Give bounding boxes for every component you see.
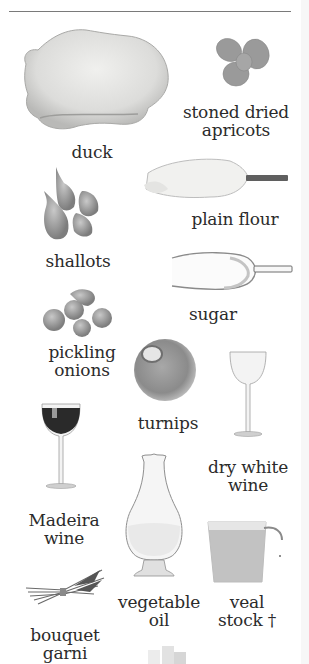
oil-carafe-icon [124, 452, 184, 582]
sugar-label: sugar [185, 305, 241, 323]
flour-scoop-icon [140, 155, 290, 205]
partial-ingredient-icon [144, 642, 190, 664]
sugar-scoop-icon [168, 250, 296, 294]
pickling-onions-icon [40, 286, 118, 338]
shallots-label: shallots [45, 252, 111, 270]
ingredients-page: duck stoned dried apricots plain flour [0, 0, 309, 664]
page-edge [301, 0, 309, 664]
apricots-icon [212, 32, 274, 90]
top-divider [9, 11, 291, 12]
vegetable-oil-label: vegetable oil [118, 593, 200, 629]
flour-label: plain flour [190, 210, 280, 228]
madeira-wine-label: Madeira wine [28, 511, 100, 547]
shallots-icon [38, 163, 118, 243]
pickling-onions-label: pickling onions [44, 343, 120, 379]
red-wine-glass-icon [40, 396, 82, 492]
bouquet-garni-icon [24, 566, 108, 610]
veal-stock-label: veal stock † [212, 593, 282, 629]
turnips-label: turnips [135, 414, 201, 432]
duck-icon [18, 22, 170, 132]
duck-label: duck [62, 143, 122, 161]
apricots-label: stoned dried apricots [180, 103, 292, 139]
white-wine-glass-icon [226, 348, 270, 440]
turnip-icon [132, 336, 198, 402]
dry-white-wine-label: dry white wine [204, 458, 292, 494]
measuring-jug-icon [206, 518, 286, 588]
bouquet-garni-label: bouquet garni [30, 626, 100, 662]
